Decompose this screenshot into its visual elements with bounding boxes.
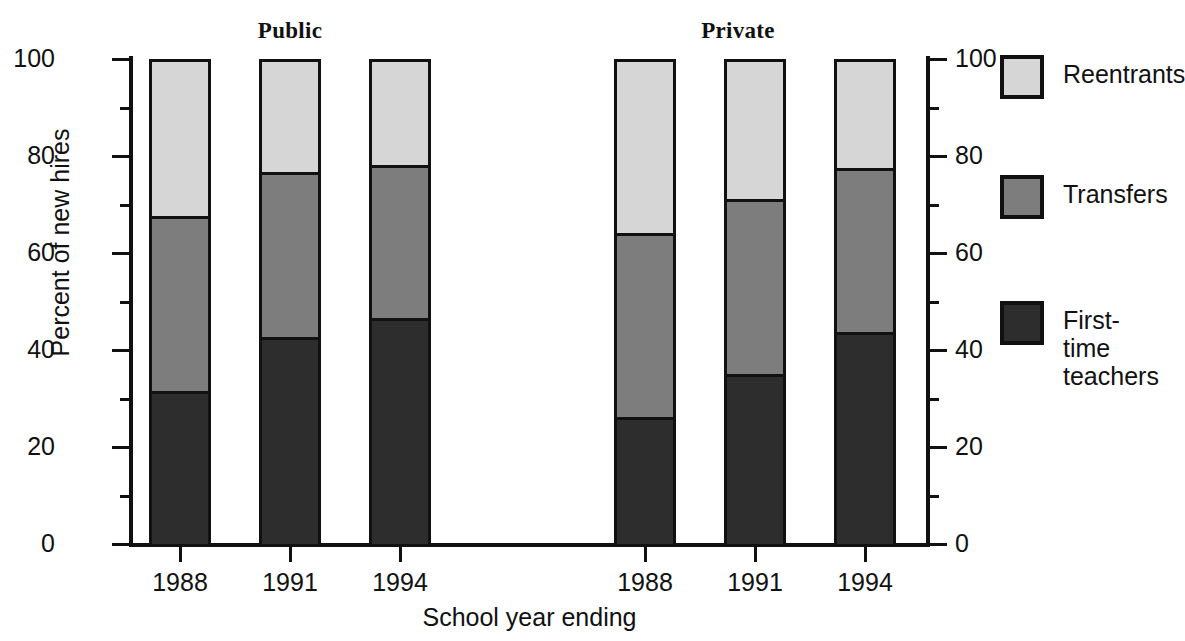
bar-segment-first-time-teachers: [614, 420, 676, 544]
bar-public-1994[interactable]: [369, 59, 431, 544]
y-tick-left-80: [112, 155, 129, 158]
legend-item-reentrants[interactable]: Reentrants: [1000, 55, 1185, 99]
y-minor-tick-left-90: [120, 107, 129, 110]
y-tick-right-20: [930, 446, 947, 449]
y-tick-left-0: [112, 543, 129, 546]
y-tick-right-80: [930, 155, 947, 158]
y-tick-label-left-80: 80: [0, 143, 55, 168]
bar-segment-transfers: [614, 236, 676, 420]
x-tick-4: [754, 547, 757, 562]
legend-item-first-time-teachers[interactable]: First-time teachers: [1000, 301, 1160, 390]
bar-private-1991[interactable]: [724, 59, 786, 544]
legend-label: First-time teachers: [1063, 301, 1160, 390]
bar-segment-reentrants: [834, 59, 896, 171]
bar-public-1988[interactable]: [149, 59, 211, 544]
y-tick-label-left-0: 0: [0, 531, 55, 556]
bar-segment-first-time-teachers: [834, 335, 896, 544]
y-tick-label-left-60: 60: [0, 240, 55, 265]
y-tick-left-60: [112, 252, 129, 255]
x-tick-label-3: 1988: [585, 570, 705, 595]
x-tick-2: [399, 547, 402, 562]
x-axis-title: School year ending: [129, 603, 930, 632]
x-tick-1: [289, 547, 292, 562]
y-minor-tick-right-50: [930, 301, 939, 304]
y-tick-label-right-60: 60: [955, 240, 1045, 265]
plot-area: [129, 59, 929, 544]
legend-item-transfers[interactable]: Transfers: [1000, 175, 1168, 219]
bar-segment-transfers: [724, 202, 786, 377]
bar-segment-reentrants: [369, 59, 431, 168]
x-tick-label-2: 1994: [340, 570, 460, 595]
bar-segment-reentrants: [259, 59, 321, 175]
y-minor-tick-right-90: [930, 107, 939, 110]
bar-segment-first-time-teachers: [149, 394, 211, 544]
y-minor-tick-right-70: [930, 204, 939, 207]
bar-segment-reentrants: [149, 59, 211, 219]
group-title-public: Public: [200, 18, 380, 44]
x-tick-3: [644, 547, 647, 562]
bar-public-1991[interactable]: [259, 59, 321, 544]
bar-private-1988[interactable]: [614, 59, 676, 544]
x-tick-label-1: 1991: [230, 570, 350, 595]
x-tick-label-5: 1994: [805, 570, 925, 595]
y-minor-tick-left-10: [120, 495, 129, 498]
y-minor-tick-left-30: [120, 398, 129, 401]
legend-swatch-icon: [1000, 55, 1044, 99]
legend-swatch-icon: [1000, 175, 1044, 219]
y-tick-left-40: [112, 349, 129, 352]
bar-segment-first-time-teachers: [369, 321, 431, 544]
x-tick-0: [179, 547, 182, 562]
y-tick-right-60: [930, 252, 947, 255]
bar-segment-reentrants: [724, 59, 786, 202]
y-tick-left-20: [112, 446, 129, 449]
bar-segment-transfers: [369, 168, 431, 321]
y-tick-label-left-20: 20: [0, 434, 55, 459]
bar-segment-transfers: [149, 219, 211, 394]
bar-private-1994[interactable]: [834, 59, 896, 544]
y-tick-label-right-20: 20: [955, 434, 1045, 459]
legend-label: Transfers: [1063, 175, 1168, 208]
legend-label: Reentrants: [1063, 55, 1185, 88]
y-minor-tick-left-70: [120, 204, 129, 207]
x-tick-label-0: 1988: [120, 570, 240, 595]
y-tick-left-100: [112, 58, 129, 61]
bar-segment-reentrants: [614, 59, 676, 236]
y-tick-label-right-0: 0: [955, 531, 1045, 556]
legend-swatch-icon: [1000, 301, 1044, 345]
bar-segment-first-time-teachers: [259, 340, 321, 544]
bar-segment-first-time-teachers: [724, 377, 786, 544]
x-tick-label-4: 1991: [695, 570, 815, 595]
y-tick-label-left-40: 40: [0, 337, 55, 362]
x-tick-5: [864, 547, 867, 562]
bar-segment-transfers: [834, 171, 896, 336]
y-tick-label-right-80: 80: [955, 143, 1045, 168]
y-minor-tick-left-50: [120, 301, 129, 304]
y-minor-tick-right-30: [930, 398, 939, 401]
y-minor-tick-right-10: [930, 495, 939, 498]
y-tick-right-100: [930, 58, 947, 61]
y-tick-label-left-100: 100: [0, 46, 55, 71]
bar-segment-transfers: [259, 175, 321, 340]
y-tick-right-0: [930, 543, 947, 546]
y-tick-right-40: [930, 349, 947, 352]
group-title-private: Private: [648, 18, 828, 44]
